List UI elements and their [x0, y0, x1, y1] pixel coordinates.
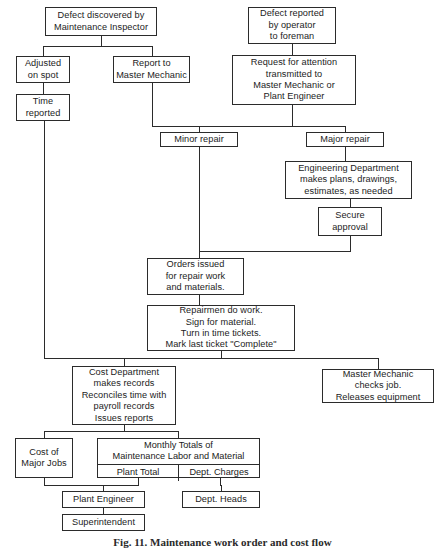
- figure-caption: Fig. 11. Maintenance work order and cost…: [0, 536, 445, 548]
- node-line: transmitted to: [266, 69, 322, 80]
- node-line: Adjusted: [25, 58, 61, 69]
- node-line: Monthly Totals of: [144, 440, 213, 451]
- node-line: by operator: [268, 20, 315, 31]
- node-line: checks job.: [355, 380, 402, 391]
- node-secure-approval: Secure approval: [318, 207, 382, 236]
- node-line: for repair work: [166, 271, 225, 282]
- monthly-totals-cells: Plant Total Dept. Charges: [98, 464, 259, 481]
- node-monthly-totals: Monthly Totals of Maintenance Labor and …: [97, 438, 260, 478]
- node-line: Reconciles time with: [82, 390, 167, 401]
- node-line: reported: [26, 108, 61, 119]
- node-line: payroll records: [93, 401, 154, 412]
- node-line: Plant Engineer: [264, 91, 325, 102]
- node-defect-reported: Defect reported by operator to foreman: [248, 7, 336, 44]
- node-line: Time: [33, 96, 53, 107]
- edge-n15-to-n17: [44, 478, 103, 485]
- node-line: approval: [332, 222, 368, 233]
- node-line: Defect discovered by: [58, 10, 145, 21]
- node-line: Master Mechanic: [343, 369, 414, 380]
- cell-dept-charges: Dept. Charges: [178, 465, 259, 481]
- node-line: Sign for material.: [186, 317, 256, 328]
- node-plant-engineer: Plant Engineer: [62, 491, 145, 508]
- monthly-totals-header: Monthly Totals of Maintenance Labor and …: [98, 439, 259, 464]
- node-dept-heads: Dept. Heads: [182, 491, 260, 508]
- node-engineering-department: Engineering Department makes plans, draw…: [285, 161, 412, 199]
- node-cost-department: Cost Department makes records Reconciles…: [72, 366, 176, 425]
- node-line: Issues reports: [95, 413, 153, 424]
- node-line: makes plans, drawings,: [300, 174, 397, 185]
- node-line: to foreman: [270, 31, 314, 42]
- node-line: Dept. Heads: [195, 494, 247, 505]
- node-line: Engineering Department: [298, 163, 399, 174]
- node-line: and materials.: [166, 282, 224, 293]
- node-line: Releases equipment: [336, 392, 421, 403]
- node-line: Cost of: [29, 447, 58, 458]
- node-line: Orders issued: [167, 259, 225, 270]
- node-master-mechanic-checks-job: Master Mechanic checks job. Releases equ…: [322, 369, 434, 403]
- node-request-for-attention: Request for attention transmitted to Mas…: [232, 55, 356, 105]
- node-line: Report to: [132, 58, 170, 69]
- node-line: makes records: [94, 378, 155, 389]
- edge-n4-to-bus: [152, 83, 199, 126]
- node-line: on spot: [28, 70, 59, 81]
- node-defect-discovered: Defect discovered by Maintenance Inspect…: [45, 7, 157, 36]
- node-line: estimates, as needed: [304, 186, 392, 197]
- node-line: Master Mechanic or: [253, 80, 335, 91]
- node-repairmen-do-work: Repairmen do work. Sign for material. Tu…: [147, 305, 295, 351]
- node-line: Maintenance Inspector: [54, 22, 148, 33]
- node-line: Secure: [335, 210, 364, 221]
- node-time-reported: Time reported: [16, 94, 70, 121]
- node-orders-issued: Orders issued for repair work and materi…: [147, 258, 244, 295]
- edge-n10-to-orders: [199, 236, 350, 251]
- node-line: Major Jobs: [21, 458, 66, 469]
- node-line: Plant Engineer: [73, 494, 134, 505]
- node-minor-repair: Minor repair: [160, 132, 238, 147]
- node-report-to-master-mechanic: Report to Master Mechanic: [113, 56, 190, 83]
- node-major-repair: Major repair: [306, 132, 384, 147]
- node-line: Turn in time tickets.: [181, 328, 261, 339]
- node-cost-of-major-jobs: Cost of Major Jobs: [15, 438, 73, 478]
- node-line: Master Mechanic: [116, 70, 187, 81]
- node-line: Major repair: [320, 134, 370, 145]
- node-superintendent: Superintendent: [62, 514, 145, 531]
- node-line: Superintendent: [72, 517, 135, 528]
- node-line: Request for attention: [251, 57, 337, 68]
- cell-plant-total: Plant Total: [98, 465, 178, 481]
- node-adjusted-on-spot: Adjusted on spot: [16, 56, 70, 83]
- node-line: Minor repair: [174, 134, 224, 145]
- node-line: Cost Department: [89, 367, 159, 378]
- flowchart-diagram: Defect discovered by Maintenance Inspect…: [0, 0, 445, 549]
- node-line: Defect reported: [260, 8, 324, 19]
- node-line: Maintenance Labor and Material: [113, 451, 245, 462]
- node-line: Mark last ticket "Complete": [165, 339, 276, 350]
- node-line: Repairmen do work.: [179, 305, 262, 316]
